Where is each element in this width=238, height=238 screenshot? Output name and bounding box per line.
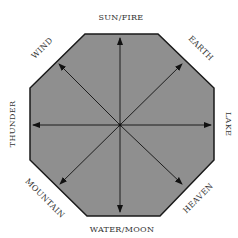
diagram-canvas: SUN/FIRE WATER/MOON THUNDER LAKE WIND EA… [0,0,238,238]
label-top-right: EARTH [187,34,216,63]
label-top-left: WIND [30,36,55,61]
label-top: SUN/FIRE [99,13,144,22]
label-bottom: WATER/MOON [90,225,154,234]
label-right: LAKE [224,112,233,136]
center-point [119,124,122,127]
label-left: THUNDER [8,100,17,147]
octagon-diagram: SUN/FIRE WATER/MOON THUNDER LAKE WIND EA… [0,0,238,238]
